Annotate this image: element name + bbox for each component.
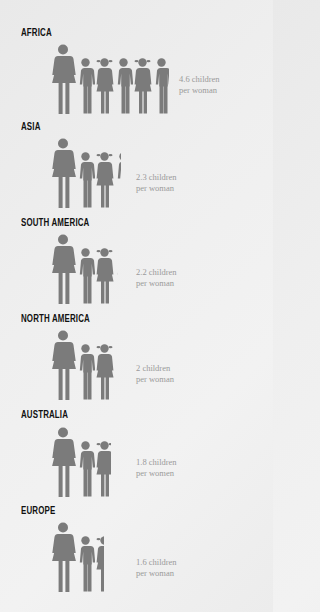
woman-icon xyxy=(52,428,76,498)
boy-icon xyxy=(80,344,95,399)
stat-unit: per woman xyxy=(136,568,177,579)
region-label: ASIA xyxy=(21,120,41,132)
stat-text: 2.3 children per woman xyxy=(136,172,177,194)
stat-text: 4.6 children per woman xyxy=(179,74,220,96)
boy-icon xyxy=(118,152,121,207)
boy-icon xyxy=(80,441,95,496)
pictogram xyxy=(50,44,169,114)
boy-icon xyxy=(156,58,169,113)
region-africa: AFRICA 4.6 children per woman xyxy=(0,26,273,116)
region-label: AFRICA xyxy=(21,26,52,38)
boy-icon xyxy=(118,58,133,113)
girl-icon xyxy=(97,441,112,496)
boy-icon xyxy=(80,536,95,591)
stat-value: 1.8 children xyxy=(136,457,177,468)
pictogram xyxy=(50,138,121,208)
stat-unit: per woman xyxy=(179,85,220,96)
stat-value: 2.3 children xyxy=(136,172,177,183)
stat-text: 1.6 children per woman xyxy=(136,557,177,579)
stat-unit: per woman xyxy=(136,183,177,194)
woman-icon xyxy=(52,235,76,305)
woman-icon xyxy=(52,139,76,209)
stat-unit: per women xyxy=(136,468,177,479)
region-label: EUROPE xyxy=(21,504,55,516)
region-australia: AUSTRALIA 1.8 children per women xyxy=(0,408,273,502)
stat-value: 2 children xyxy=(136,363,174,374)
boy-icon xyxy=(80,248,95,303)
girl-icon xyxy=(97,344,114,399)
stat-value: 4.6 children xyxy=(179,74,220,85)
stat-unit: per woman xyxy=(136,278,177,289)
region-label: SOUTH AMERICA xyxy=(21,216,89,228)
boy-icon xyxy=(80,58,95,113)
region-north-america: NORTH AMERICA 2 children per woman xyxy=(0,312,273,404)
region-label: AUSTRALIA xyxy=(21,408,68,420)
pictogram xyxy=(50,330,114,400)
region-south-america: SOUTH AMERICA 2.2 children per woman xyxy=(0,216,273,308)
region-europe: EUROPE 1.6 children per woman xyxy=(0,504,273,604)
stat-text: 2.2 children per woman xyxy=(136,267,177,289)
region-asia: ASIA 2.3 children per woman xyxy=(0,120,273,212)
woman-icon xyxy=(52,523,76,593)
stat-value: 2.2 children xyxy=(136,267,177,278)
region-label: NORTH AMERICA xyxy=(21,312,90,324)
pictogram xyxy=(50,522,104,592)
woman-icon xyxy=(52,331,76,401)
girl-icon xyxy=(97,248,114,303)
girl-icon xyxy=(97,58,114,113)
stat-unit: per woman xyxy=(136,374,174,385)
boy-icon xyxy=(80,152,95,207)
pictogram xyxy=(50,427,111,497)
stat-text: 2 children per woman xyxy=(136,363,174,385)
woman-icon xyxy=(52,45,76,115)
pictogram xyxy=(50,234,118,304)
stat-text: 1.8 children per women xyxy=(136,457,177,479)
girl-icon xyxy=(97,536,105,591)
girl-icon xyxy=(135,58,152,113)
girl-icon xyxy=(97,152,114,207)
stat-value: 1.6 children xyxy=(136,557,177,568)
